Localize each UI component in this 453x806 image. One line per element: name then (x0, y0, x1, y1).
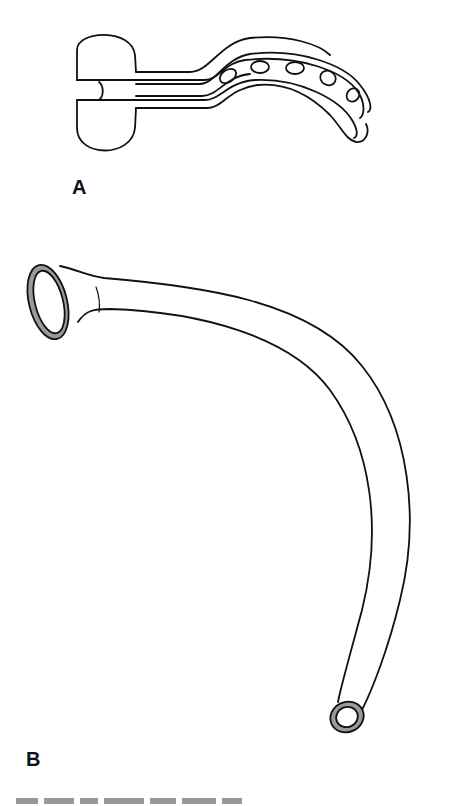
flange-notch (99, 82, 103, 100)
airway-diagram (0, 0, 453, 806)
vent-hole (344, 86, 362, 104)
panel-b-label: B (26, 748, 40, 771)
panel-a-label: A (72, 176, 86, 199)
panel-b-nasal-airway (20, 261, 409, 738)
vent-hole (217, 66, 239, 86)
tube-inner-edge (78, 309, 372, 702)
flange-outline (77, 35, 136, 151)
figure-caption-cropped (16, 798, 436, 806)
tube-outer-edge (60, 266, 410, 710)
channel-bottom (77, 80, 357, 138)
vent-hole (251, 61, 269, 73)
panel-a-oral-airway (77, 35, 370, 151)
vent-hole (318, 68, 339, 88)
vent-hole (286, 62, 304, 74)
bite-block-lower-inner (136, 74, 250, 96)
bite-block-lower-outer (136, 85, 368, 142)
funnel-crease (96, 287, 99, 312)
